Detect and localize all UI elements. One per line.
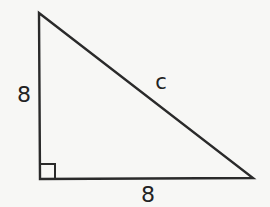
- right-triangle-diagram: 8 8 c: [0, 0, 270, 207]
- vertical-leg-label: 8: [17, 82, 31, 107]
- right-angle-marker: [40, 164, 55, 179]
- hypotenuse-label: c: [155, 70, 167, 94]
- horizontal-leg-label: 8: [141, 182, 155, 207]
- triangle: [39, 13, 253, 179]
